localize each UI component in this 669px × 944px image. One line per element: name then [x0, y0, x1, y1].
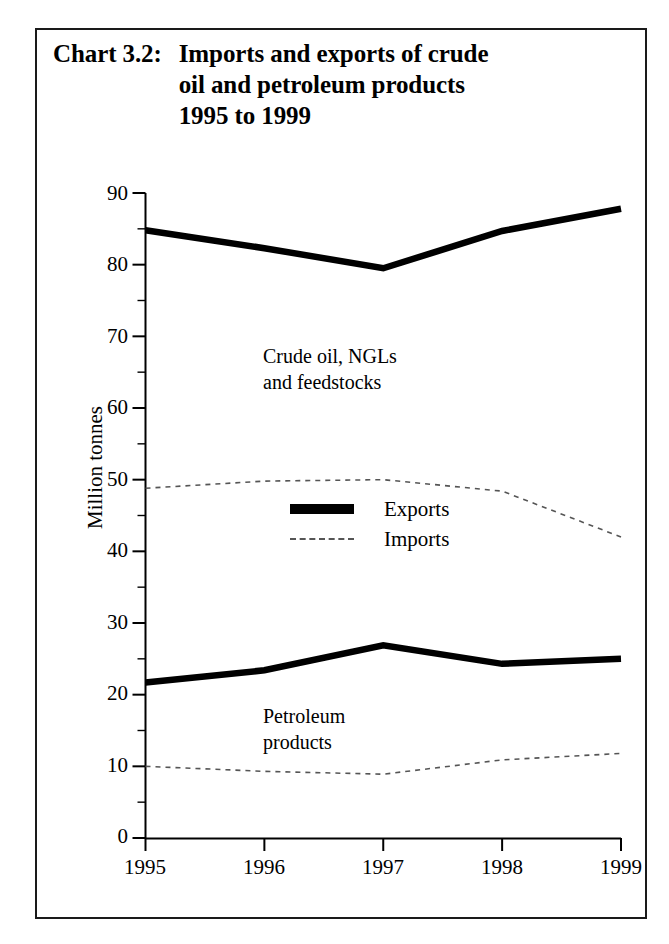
- series-layer: [146, 209, 622, 774]
- x-tick-label-1995: 1995: [105, 855, 185, 880]
- x-tick-label-1996: 1996: [224, 855, 304, 880]
- x-tick-label-1998: 1998: [462, 855, 542, 880]
- y-tick-label-70: 70: [88, 324, 128, 349]
- legend-label-imports: Imports: [357, 527, 449, 552]
- legend-item-exports: Exports: [287, 494, 449, 524]
- x-axis-major-ticks: [146, 838, 622, 851]
- annotation-petroleum-line-1: Petroleum: [263, 703, 345, 729]
- y-tick-label-50: 50: [88, 467, 128, 492]
- legend-key-dashed-line-icon: [287, 538, 357, 540]
- series-line-2: [146, 645, 622, 682]
- chart-legend: Exports Imports: [287, 494, 449, 554]
- y-tick-label-20: 20: [88, 681, 128, 706]
- x-tick-label-1997: 1997: [343, 855, 423, 880]
- y-tick-label-60: 60: [88, 395, 128, 420]
- annotation-crude-oil-line-1: Crude oil, NGLs: [263, 343, 397, 369]
- annotation-petroleum-products: Petroleum products: [263, 703, 345, 755]
- y-tick-label-80: 80: [88, 252, 128, 277]
- y-tick-label-40: 40: [88, 538, 128, 563]
- legend-item-imports: Imports: [287, 524, 449, 554]
- chart-figure: Chart 3.2: Imports and exports of crude …: [0, 0, 669, 944]
- legend-label-exports: Exports: [357, 497, 449, 522]
- annotation-petroleum-line-2: products: [263, 729, 345, 755]
- annotation-crude-oil-line-2: and feedstocks: [263, 369, 397, 395]
- x-tick-label-1999: 1999: [581, 855, 661, 880]
- series-line-0: [146, 209, 622, 268]
- y-tick-label-0: 0: [88, 824, 128, 849]
- y-tick-label-10: 10: [88, 753, 128, 778]
- y-axis-minor-ticks: [138, 229, 146, 802]
- legend-key-solid-line-icon: [287, 504, 357, 514]
- y-tick-label-30: 30: [88, 610, 128, 635]
- annotation-crude-oil: Crude oil, NGLs and feedstocks: [263, 343, 397, 395]
- y-tick-label-90: 90: [88, 181, 128, 206]
- series-line-3: [146, 753, 622, 774]
